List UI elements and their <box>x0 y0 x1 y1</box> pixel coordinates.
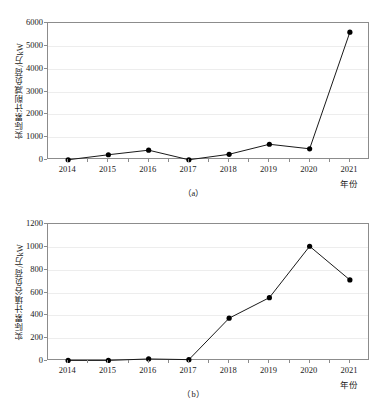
y-axis-tick-mark <box>44 159 47 160</box>
y-axis-tick-mark <box>44 136 47 137</box>
y-axis-tick-label: 0 <box>13 356 43 365</box>
x-axis-tick-label: 2018 <box>208 165 248 174</box>
x-axis-minor-tick-mark <box>168 159 169 162</box>
plot-wrapper-a: 0100020003000400050006000201420152016201… <box>0 0 387 200</box>
x-axis-tick-label: 2017 <box>168 366 208 375</box>
data-point-marker <box>267 295 272 300</box>
y-axis-tick-label: 0 <box>13 155 43 164</box>
y-axis-title: 实际累计削减负荷/万kW <box>14 43 26 139</box>
data-point-marker <box>307 146 312 151</box>
chart-panel-a: 0100020003000400050006000201420152016201… <box>0 0 387 200</box>
x-axis-minor-tick-mark <box>168 360 169 363</box>
y-axis-tick-mark <box>44 68 47 69</box>
x-axis-tick-label: 2021 <box>329 366 369 375</box>
y-axis-tick-mark <box>44 45 47 46</box>
x-axis-tick-mark <box>268 159 269 162</box>
x-axis-tick-label: 2019 <box>248 165 288 174</box>
x-axis-tick-label: 2020 <box>289 366 329 375</box>
y-axis-tick-mark <box>44 246 47 247</box>
y-axis-tick-mark <box>44 360 47 361</box>
data-point-marker <box>347 30 352 35</box>
x-axis-minor-tick-mark <box>208 159 209 162</box>
figure-container: 0100020003000400050006000201420152016201… <box>0 0 387 400</box>
x-axis-minor-tick-mark <box>248 159 249 162</box>
x-axis-tick-mark <box>148 159 149 162</box>
x-axis-tick-mark <box>228 159 229 162</box>
x-axis-tick-mark <box>188 360 189 363</box>
y-axis-tick-mark <box>44 314 47 315</box>
x-axis-tick-label: 2018 <box>208 366 248 375</box>
x-axis-minor-tick-mark <box>128 159 129 162</box>
x-axis-tick-mark <box>228 360 229 363</box>
y-axis-tick-mark <box>44 292 47 293</box>
x-axis-tick-mark <box>349 159 350 162</box>
panel-caption: （a） <box>0 186 387 198</box>
y-axis-tick-mark <box>44 269 47 270</box>
x-axis-tick-mark <box>67 360 68 363</box>
chart-panel-b: 0200400600800100012002014201520162017201… <box>0 199 387 400</box>
y-axis-tick-mark <box>44 113 47 114</box>
y-axis-tick-mark <box>44 22 47 23</box>
x-axis-minor-tick-mark <box>329 360 330 363</box>
y-axis-tick-mark <box>44 337 47 338</box>
plot-area-panel-a <box>47 22 369 159</box>
series-line-panel-b <box>48 224 370 361</box>
x-axis-tick-mark <box>309 360 310 363</box>
y-axis-tick-mark <box>44 223 47 224</box>
x-axis-tick-mark <box>188 159 189 162</box>
x-axis-tick-label: 2014 <box>47 165 87 174</box>
x-axis-minor-tick-mark <box>208 360 209 363</box>
data-point-marker <box>267 142 272 147</box>
x-axis-tick-mark <box>67 159 68 162</box>
x-axis-tick-label: 2016 <box>128 165 168 174</box>
y-axis-tick-label: 1200 <box>13 219 43 228</box>
y-axis-title: 实际累计填谷负荷/万kW <box>14 244 26 340</box>
data-point-marker <box>227 152 232 157</box>
x-axis-tick-mark <box>309 159 310 162</box>
x-axis-tick-mark <box>148 360 149 363</box>
x-axis-minor-tick-mark <box>289 360 290 363</box>
x-axis-tick-mark <box>107 360 108 363</box>
x-axis-tick-label: 2014 <box>47 366 87 375</box>
plot-wrapper-b: 0200400600800100012002014201520162017201… <box>0 199 387 400</box>
x-axis-minor-tick-mark <box>128 360 129 363</box>
x-axis-tick-label: 2020 <box>289 165 329 174</box>
x-axis-tick-mark <box>349 360 350 363</box>
x-axis-minor-tick-mark <box>248 360 249 363</box>
x-axis-minor-tick-mark <box>87 159 88 162</box>
series-polyline <box>68 32 350 160</box>
x-axis-tick-mark <box>107 159 108 162</box>
series-line-panel-a <box>48 23 370 160</box>
x-axis-tick-label: 2019 <box>248 366 288 375</box>
data-point-marker <box>146 148 151 153</box>
x-axis-tick-label: 2017 <box>168 165 208 174</box>
x-axis-minor-tick-mark <box>289 159 290 162</box>
data-point-marker <box>106 152 111 157</box>
plot-area-panel-b <box>47 223 369 360</box>
data-point-marker <box>227 316 232 321</box>
data-point-marker <box>307 244 312 249</box>
x-axis-minor-tick-mark <box>329 159 330 162</box>
y-axis-tick-mark <box>44 91 47 92</box>
x-axis-tick-label: 2015 <box>87 366 127 375</box>
x-axis-minor-tick-mark <box>87 360 88 363</box>
x-axis-tick-label: 2021 <box>329 165 369 174</box>
x-axis-tick-label: 2015 <box>87 165 127 174</box>
panel-caption: （b） <box>0 387 387 399</box>
series-polyline <box>68 246 350 360</box>
x-axis-tick-mark <box>268 360 269 363</box>
x-axis-tick-label: 2016 <box>128 366 168 375</box>
data-point-marker <box>347 277 352 282</box>
y-axis-tick-label: 6000 <box>13 18 43 27</box>
